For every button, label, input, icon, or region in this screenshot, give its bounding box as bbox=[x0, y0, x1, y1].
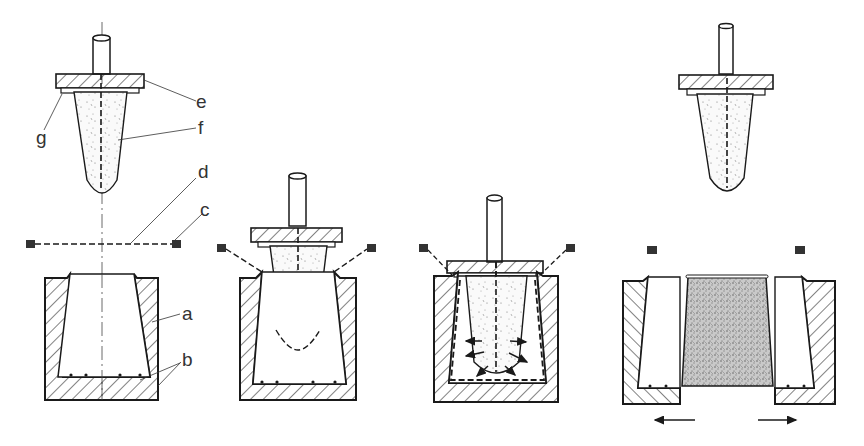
formed-part bbox=[682, 277, 773, 386]
label-a: a bbox=[182, 304, 193, 323]
clamp-left bbox=[26, 240, 35, 248]
label-d: d bbox=[198, 162, 209, 181]
diagram-canvas bbox=[0, 0, 864, 446]
label-b: b bbox=[182, 350, 193, 369]
stage-1 bbox=[26, 22, 202, 400]
clamp-c bbox=[172, 240, 181, 248]
label-c: c bbox=[200, 200, 210, 219]
stage-4 bbox=[622, 24, 835, 421]
stage-2 bbox=[217, 173, 376, 400]
plug-rod bbox=[93, 35, 110, 74]
plug-plate-e bbox=[56, 74, 144, 88]
stage-3 bbox=[419, 195, 575, 402]
mould-a bbox=[45, 274, 158, 400]
label-g: g bbox=[36, 128, 47, 147]
label-f: f bbox=[198, 118, 203, 137]
thermoforming-diagram: e f g d c a b bbox=[0, 0, 864, 446]
label-e: e bbox=[196, 92, 207, 111]
